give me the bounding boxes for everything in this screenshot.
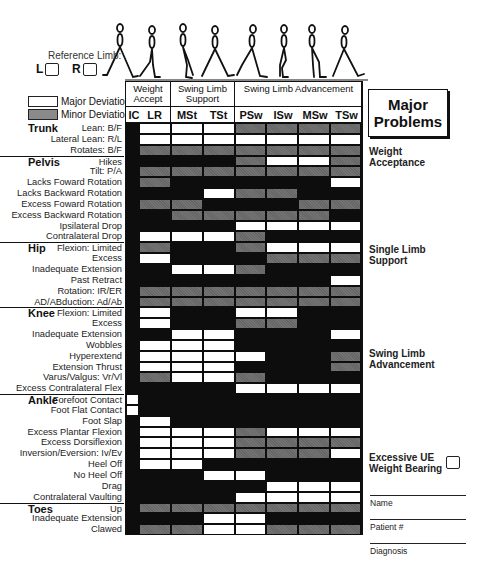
grid-cell-msw[interactable] (298, 166, 330, 177)
grid-cell-psw[interactable] (235, 134, 267, 145)
name-field[interactable]: Name (370, 495, 466, 508)
grid-cell-psw[interactable] (235, 264, 267, 275)
grid-cell-lr[interactable] (139, 427, 171, 438)
grid-cell-tst[interactable] (203, 437, 235, 448)
grid-cell-msw[interactable] (298, 242, 330, 253)
grid-cell-isw[interactable] (266, 524, 298, 535)
grid-cell-tsw[interactable] (330, 503, 361, 514)
grid-cell-lr[interactable] (139, 416, 171, 427)
grid-cell-psw[interactable] (235, 210, 267, 221)
grid-cell-isw[interactable] (266, 134, 298, 145)
grid-cell-tst[interactable] (203, 231, 235, 242)
grid-cell-tsw[interactable] (330, 156, 361, 167)
grid-cell-lr[interactable] (139, 318, 171, 329)
grid-cell-isw[interactable] (266, 156, 298, 167)
grid-cell-lr[interactable] (139, 253, 171, 264)
grid-cell-tsw[interactable] (330, 524, 361, 535)
grid-cell-lr[interactable] (139, 297, 171, 308)
grid-cell-tsw[interactable] (330, 448, 361, 459)
grid-cell-msw[interactable] (298, 145, 330, 156)
grid-cell-mst[interactable] (171, 448, 203, 459)
grid-cell-tst[interactable] (203, 210, 235, 221)
grid-cell-tst[interactable] (203, 503, 235, 514)
grid-cell-psw[interactable] (235, 166, 267, 177)
reference-limb-right[interactable]: R (72, 62, 97, 76)
grid-cell-tsw[interactable] (330, 362, 361, 373)
grid-cell-msw[interactable] (298, 123, 330, 134)
grid-cell-psw[interactable] (235, 242, 267, 253)
grid-cell-psw[interactable] (235, 297, 267, 308)
grid-cell-tst[interactable] (203, 297, 235, 308)
grid-cell-lr[interactable] (139, 503, 171, 514)
grid-cell-isw[interactable] (266, 253, 298, 264)
grid-cell-mst[interactable] (171, 199, 203, 210)
grid-cell-lr[interactable] (139, 372, 171, 383)
grid-cell-lr[interactable] (139, 459, 171, 470)
grid-cell-psw[interactable] (235, 492, 267, 503)
left-checkbox[interactable] (45, 63, 59, 76)
grid-cell-msw[interactable] (298, 210, 330, 221)
grid-cell-isw[interactable] (266, 448, 298, 459)
grid-cell-mst[interactable] (171, 503, 203, 514)
grid-cell-tsw[interactable] (330, 177, 361, 188)
grid-cell-tst[interactable] (203, 524, 235, 535)
grid-cell-isw[interactable] (266, 318, 298, 329)
grid-cell-mst[interactable] (171, 329, 203, 340)
grid-cell-msw[interactable] (298, 199, 330, 210)
grid-cell-psw[interactable] (235, 188, 267, 199)
grid-cell-msw[interactable] (298, 481, 330, 492)
grid-cell-mst[interactable] (171, 340, 203, 351)
grid-cell-tsw[interactable] (330, 427, 361, 438)
grid-cell-mst[interactable] (171, 437, 203, 448)
grid-cell-psw[interactable] (235, 351, 267, 362)
grid-cell-psw[interactable] (235, 221, 267, 232)
grid-cell-psw[interactable] (235, 503, 267, 514)
grid-cell-mst[interactable] (171, 362, 203, 373)
grid-cell-msw[interactable] (298, 492, 330, 503)
grid-cell-msw[interactable] (298, 383, 330, 394)
grid-cell-psw[interactable] (235, 524, 267, 535)
grid-cell-lr[interactable] (139, 231, 171, 242)
grid-cell-mst[interactable] (171, 123, 203, 134)
grid-cell-lr[interactable] (139, 145, 171, 156)
grid-cell-lr[interactable] (139, 307, 171, 318)
grid-cell-msw[interactable] (298, 134, 330, 145)
grid-cell-tsw[interactable] (330, 253, 361, 264)
grid-cell-tst[interactable] (203, 362, 235, 373)
grid-cell-msw[interactable] (298, 156, 330, 167)
grid-cell-isw[interactable] (266, 145, 298, 156)
grid-cell-tst[interactable] (203, 372, 235, 383)
grid-cell-tst[interactable] (203, 134, 235, 145)
grid-cell-psw[interactable] (235, 372, 267, 383)
grid-cell-tst[interactable] (203, 513, 235, 524)
grid-cell-tsw[interactable] (330, 123, 361, 134)
grid-cell-isw[interactable] (266, 166, 298, 177)
grid-cell-mst[interactable] (171, 166, 203, 177)
grid-cell-tst[interactable] (203, 145, 235, 156)
grid-cell-ic[interactable] (126, 394, 139, 405)
grid-cell-mst[interactable] (171, 134, 203, 145)
grid-cell-lr[interactable] (139, 340, 171, 351)
grid-cell-msw[interactable] (298, 286, 330, 297)
grid-cell-msw[interactable] (298, 524, 330, 535)
grid-cell-tsw[interactable] (330, 297, 361, 308)
grid-cell-mst[interactable] (171, 427, 203, 438)
grid-cell-psw[interactable] (235, 145, 267, 156)
grid-cell-msw[interactable] (298, 437, 330, 448)
grid-cell-isw[interactable] (266, 503, 298, 514)
grid-cell-psw[interactable] (235, 470, 267, 481)
grid-cell-tst[interactable] (203, 427, 235, 438)
grid-cell-lr[interactable] (139, 123, 171, 134)
grid-cell-mst[interactable] (171, 459, 203, 470)
grid-cell-psw[interactable] (235, 231, 267, 242)
grid-cell-psw[interactable] (235, 318, 267, 329)
grid-cell-psw[interactable] (235, 448, 267, 459)
grid-cell-lr[interactable] (139, 448, 171, 459)
grid-cell-isw[interactable] (266, 210, 298, 221)
grid-cell-lr[interactable] (139, 524, 171, 535)
grid-cell-msw[interactable] (298, 253, 330, 264)
grid-cell-tsw[interactable] (330, 221, 361, 232)
grid-cell-lr[interactable] (139, 166, 171, 177)
grid-cell-mst[interactable] (171, 286, 203, 297)
grid-cell-tsw[interactable] (330, 329, 361, 340)
